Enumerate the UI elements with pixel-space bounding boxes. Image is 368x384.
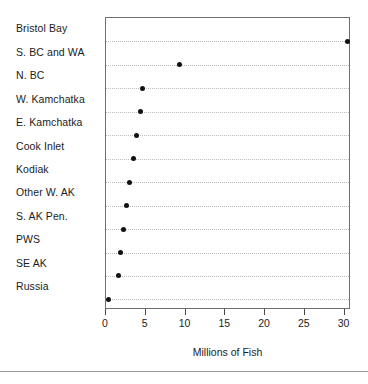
gridline	[106, 206, 349, 207]
x-tick-label: 20	[258, 317, 270, 329]
x-axis-title: Millions of Fish	[105, 346, 350, 358]
gridline	[106, 159, 349, 160]
category-label: N. BC	[0, 70, 98, 81]
x-tick-label: 15	[218, 317, 230, 329]
data-point	[177, 62, 182, 67]
category-label: Cook Inlet	[0, 140, 98, 151]
category-label: SE AK	[0, 257, 98, 268]
x-tick-label: 5	[142, 317, 148, 329]
category-label: S. AK Pen.	[0, 210, 98, 221]
x-tick-label: 25	[298, 317, 310, 329]
x-tick	[344, 309, 345, 315]
data-point	[140, 86, 145, 91]
dot-plot-figure: Bristol BayS. BC and WAN. BCW. Kamchatka…	[0, 0, 368, 384]
x-tick	[105, 309, 106, 315]
x-tick-label: 30	[338, 317, 350, 329]
data-point	[345, 39, 350, 44]
gridline	[106, 135, 349, 136]
x-tick	[145, 309, 146, 315]
x-tick	[224, 309, 225, 315]
gridline	[106, 299, 349, 300]
data-point	[124, 203, 129, 208]
category-label: Kodiak	[0, 163, 98, 174]
category-label: S. BC and WA	[0, 46, 98, 57]
gridline	[106, 182, 349, 183]
x-tick	[264, 309, 265, 315]
data-point	[121, 227, 126, 232]
category-label: Other W. AK	[0, 187, 98, 198]
bottom-divider	[0, 371, 368, 372]
x-tick-label: 10	[179, 317, 191, 329]
category-label: Russia	[0, 281, 98, 292]
gridline	[106, 276, 349, 277]
gridline	[106, 229, 349, 230]
data-point	[138, 109, 143, 114]
category-label: PWS	[0, 234, 98, 245]
data-point	[134, 133, 139, 138]
x-tick-label: 0	[102, 317, 108, 329]
x-tick	[304, 309, 305, 315]
category-label: Bristol Bay	[0, 23, 98, 34]
data-point	[118, 250, 123, 255]
gridline	[106, 253, 349, 254]
data-point	[127, 180, 132, 185]
x-tick	[185, 309, 186, 315]
x-axis: 051015202530	[105, 309, 350, 339]
category-label: W. Kamchatka	[0, 93, 98, 104]
data-point	[131, 156, 136, 161]
category-label: E. Kamchatka	[0, 117, 98, 128]
data-point	[116, 273, 121, 278]
gridline	[106, 41, 349, 42]
plot-area	[106, 18, 349, 308]
data-point	[106, 297, 111, 302]
category-axis-labels: Bristol BayS. BC and WAN. BCW. Kamchatka…	[0, 0, 100, 384]
gridline	[106, 65, 349, 66]
plot-panel	[105, 17, 350, 309]
